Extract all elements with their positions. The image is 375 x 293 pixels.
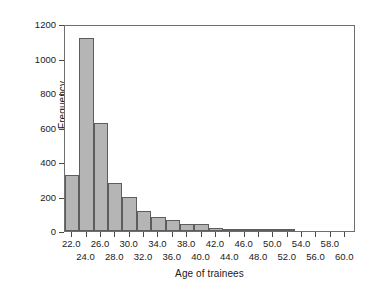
- y-axis-tick: [59, 232, 64, 233]
- x-axis-tick: [86, 232, 87, 237]
- x-axis-tick: [129, 232, 130, 237]
- x-axis-tick: [315, 232, 316, 237]
- x-axis-tick: [258, 232, 259, 237]
- histogram-bar: [223, 229, 237, 231]
- histogram-bars: [65, 26, 354, 231]
- plot-area: [64, 25, 355, 232]
- histogram-bar: [122, 197, 136, 232]
- x-axis-tick: [114, 232, 115, 237]
- x-axis-tick: [229, 232, 230, 237]
- histogram-bar: [266, 229, 280, 231]
- y-axis-tick-label: 600: [16, 124, 56, 134]
- y-axis-tick-label: 800: [16, 89, 56, 99]
- x-axis-tick: [344, 232, 345, 237]
- histogram-bar: [252, 229, 266, 231]
- x-axis-tick-label: 58.0: [313, 239, 347, 249]
- histogram-bar: [108, 183, 122, 231]
- x-axis-tick: [330, 232, 331, 237]
- x-axis-tick: [244, 232, 245, 237]
- histogram-bar: [194, 224, 208, 231]
- x-axis-tick: [172, 232, 173, 237]
- y-axis-tick-label: 1000: [16, 55, 56, 65]
- x-axis-title: Age of trainees: [64, 268, 355, 279]
- histogram-bar: [166, 220, 180, 231]
- x-axis-tick: [215, 232, 216, 237]
- x-axis-tick: [201, 232, 202, 237]
- x-axis-tick: [71, 232, 72, 237]
- histogram-figure: Frequency 020040060080010001200 22.024.0…: [0, 0, 375, 293]
- x-axis-tick: [100, 232, 101, 237]
- y-axis-tick-label: 200: [16, 193, 56, 203]
- histogram-bar: [137, 211, 151, 231]
- histogram-bar: [281, 229, 295, 231]
- histogram-bar: [94, 123, 108, 231]
- histogram-bar: [209, 228, 223, 231]
- y-axis-tick-label: 400: [16, 158, 56, 168]
- x-axis-tick-label: 60.0: [327, 252, 361, 262]
- y-axis-tick-label: 1200: [16, 20, 56, 30]
- histogram-bar: [79, 38, 93, 231]
- histogram-bar: [180, 224, 194, 231]
- x-axis-tick: [186, 232, 187, 237]
- histogram-bar: [65, 175, 79, 231]
- x-axis-tick: [143, 232, 144, 237]
- y-axis-tick-label: 0: [16, 227, 56, 237]
- x-axis-tick: [287, 232, 288, 237]
- histogram-bar: [237, 229, 251, 231]
- x-axis-tick: [272, 232, 273, 237]
- x-axis-tick: [157, 232, 158, 237]
- x-axis-tick: [301, 232, 302, 237]
- histogram-bar: [151, 217, 165, 231]
